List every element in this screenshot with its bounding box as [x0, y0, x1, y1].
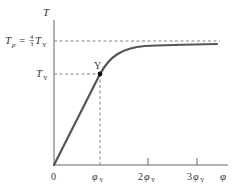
torque-curve [54, 44, 217, 165]
svg-text:3: 3 [30, 40, 33, 47]
svg-text:φ: φ [193, 171, 199, 182]
yield-point [98, 72, 103, 77]
svg-text:Y: Y [200, 177, 205, 183]
x-tick-label-3phiy: 3 φ Y [187, 171, 205, 183]
svg-text:T: T [5, 34, 12, 46]
svg-text:p: p [11, 41, 16, 49]
x-tick-label-phiy: φ Y [92, 171, 104, 183]
svg-text:T: T [35, 34, 42, 46]
x-axis-label: φ [220, 170, 226, 182]
svg-text:Y: Y [43, 74, 48, 81]
svg-text:Y: Y [99, 177, 104, 183]
x-tick-label-2phiy: 2 φ Y [138, 171, 156, 183]
svg-text:2: 2 [138, 171, 143, 182]
yield-point-label: Y [94, 60, 101, 71]
svg-text:Y: Y [151, 177, 156, 183]
svg-text:Y: Y [42, 41, 47, 48]
ty-label: T Y [36, 67, 48, 81]
svg-text:T: T [36, 67, 43, 79]
svg-text:4: 4 [30, 33, 34, 40]
y-axis-label: T [43, 6, 50, 18]
svg-text:=: = [19, 34, 25, 46]
svg-text:3: 3 [187, 171, 192, 182]
torque-twist-diagram: Y T φ T p = 4 3 T Y T Y 0 φ Y 2 φ Y 3 φ … [0, 0, 235, 184]
x-tick-label-0: 0 [51, 171, 56, 182]
svg-text:φ: φ [92, 171, 98, 182]
svg-text:φ: φ [144, 171, 150, 182]
tp-label: T p = 4 3 T Y [5, 33, 47, 49]
